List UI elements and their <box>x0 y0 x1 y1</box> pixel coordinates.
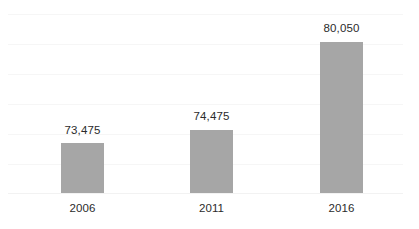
bar-group-2016: 80,050 2016 <box>300 0 383 229</box>
bar-group-2006: 73,475 2006 <box>41 0 124 229</box>
bar-value-label: 80,050 <box>300 22 383 34</box>
bar-category-label: 2016 <box>300 202 383 214</box>
bar-value-label: 74,475 <box>170 110 253 122</box>
bar-category-label: 2011 <box>170 202 253 214</box>
bar-value-label: 73,475 <box>41 124 124 136</box>
bar-group-2011: 74,475 2011 <box>170 0 253 229</box>
plot-area: 73,475 2006 74,475 2011 80,050 2016 <box>0 0 419 229</box>
bar[interactable] <box>320 42 363 193</box>
bar-chart: 73,475 2006 74,475 2011 80,050 2016 <box>0 0 419 229</box>
bar[interactable] <box>190 130 233 193</box>
bar-category-label: 2006 <box>41 202 124 214</box>
bar[interactable] <box>61 143 104 193</box>
